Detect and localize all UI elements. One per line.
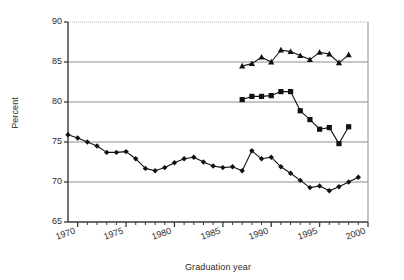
chart-figure: 657075808590 197019751980198519901995200… [0,0,404,280]
x-axis-tick-label: 2000 [344,225,366,241]
y-axis-title: Percent [10,80,20,146]
x-axis-tick-label: 1975 [102,225,124,241]
x-axis-title: Graduation year [68,262,368,272]
x-axis-tick-label: 1995 [296,225,318,241]
x-axis-tick-label: 1985 [199,225,221,241]
x-axis-tick-label: 1970 [54,225,76,241]
x-axis-tick-labels: 1970197519801985199019952000 [0,0,404,280]
x-axis-tick-label: 1980 [151,225,173,241]
x-axis-tick-label: 1990 [248,225,270,241]
